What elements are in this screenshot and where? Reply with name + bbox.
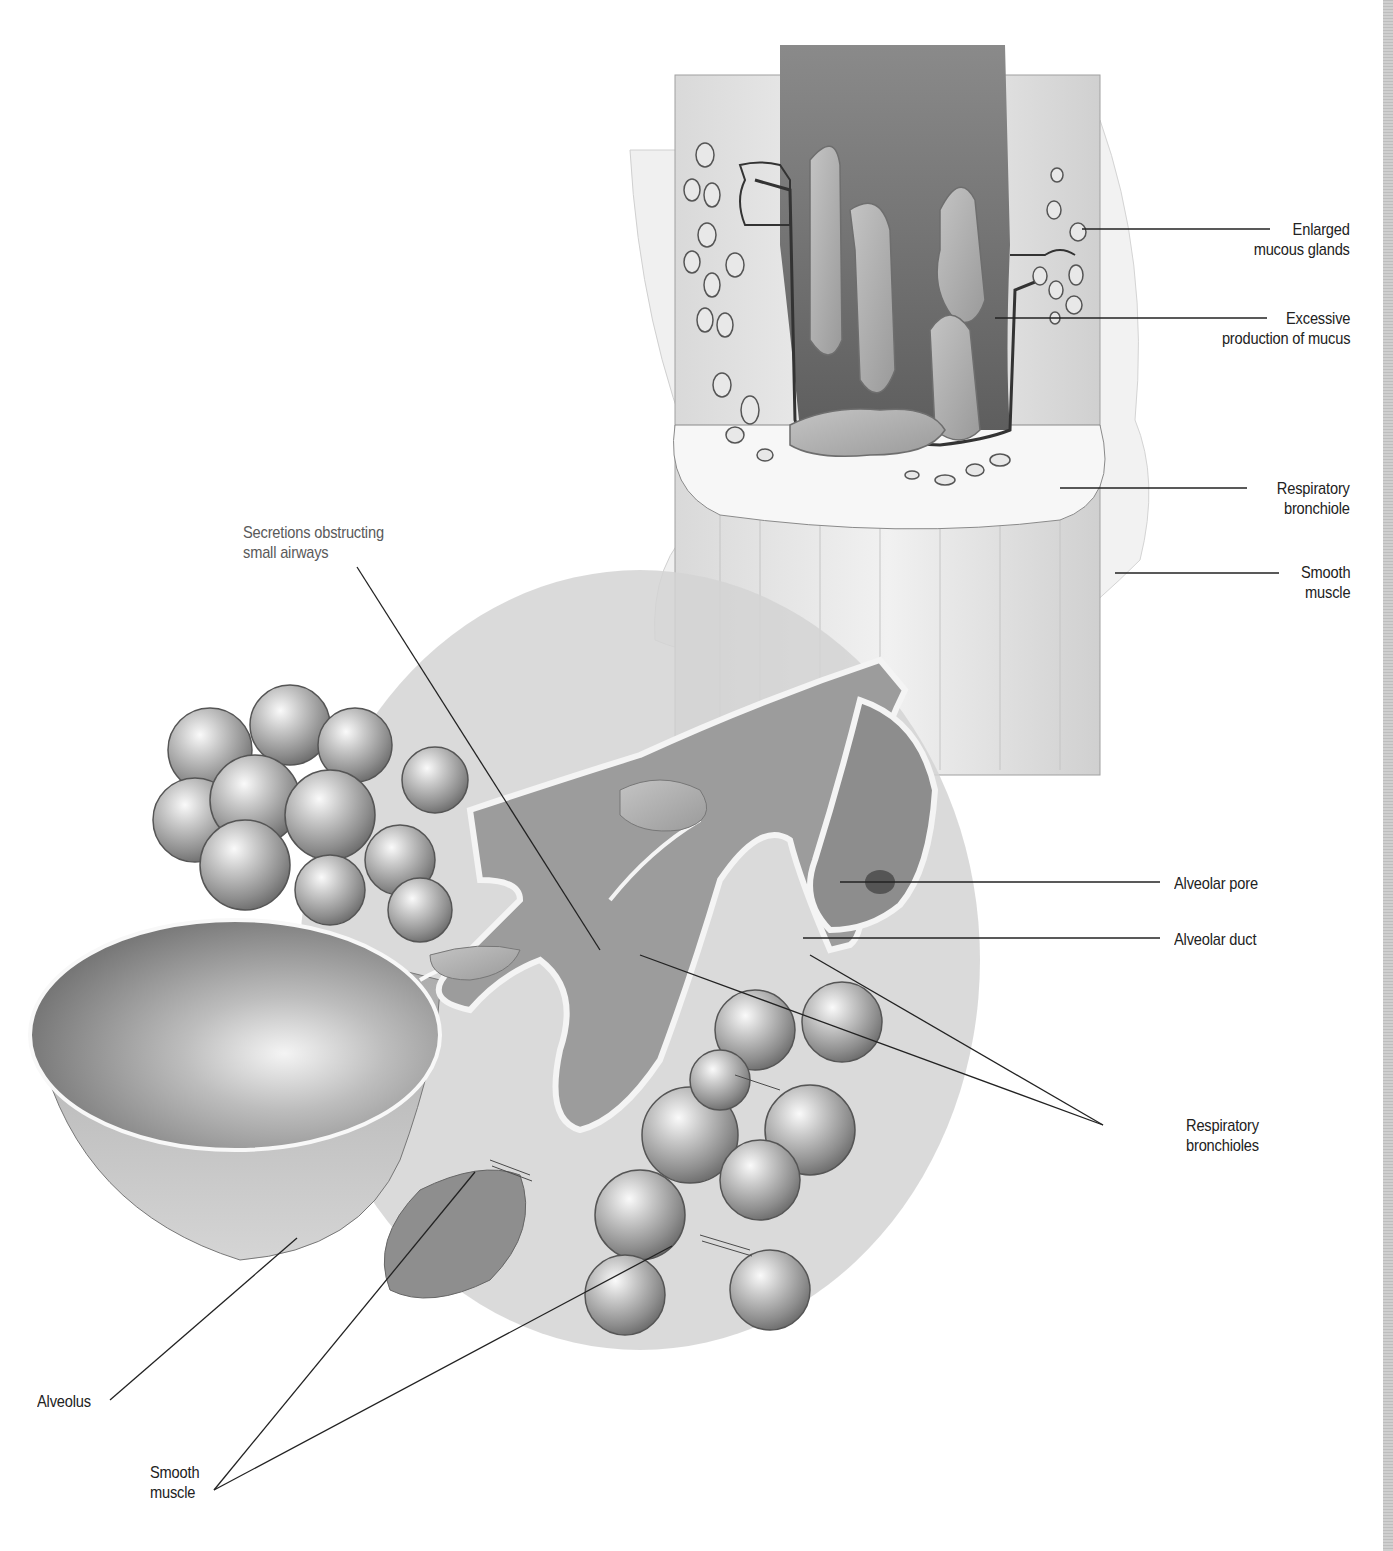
- label-smooth-muscle-top: Smooth muscle: [1301, 563, 1350, 603]
- label-excessive-production-of-mucus: Excessive production of mucus: [1222, 309, 1350, 349]
- page-edge-strip: [1383, 0, 1393, 1551]
- illustration: [0, 0, 1393, 1551]
- label-alveolar-pore: Alveolar pore: [1174, 874, 1258, 894]
- diagram-canvas: Enlarged mucous glands Excessive product…: [0, 0, 1393, 1551]
- label-smooth-muscle-bottom: Smooth muscle: [150, 1463, 199, 1503]
- label-respiratory-bronchioles: Respiratory bronchioles: [1186, 1116, 1259, 1156]
- label-respiratory-bronchiole: Respiratory bronchiole: [1277, 479, 1350, 519]
- label-alveolus: Alveolus: [37, 1392, 91, 1412]
- leader-alveolus: [110, 1238, 297, 1400]
- label-secretions-obstructing-small-airways: Secretions obstructing small airways: [243, 523, 384, 563]
- alveolar-inset: [30, 570, 980, 1350]
- label-alveolar-duct: Alveolar duct: [1174, 930, 1256, 950]
- label-enlarged-mucous-glands: Enlarged mucous glands: [1254, 220, 1350, 260]
